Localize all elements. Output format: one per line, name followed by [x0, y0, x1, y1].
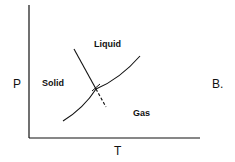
region-label-solid: Solid [42, 78, 64, 88]
fusion-line [74, 49, 96, 89]
panel-label: B. [212, 77, 223, 91]
y-axis-label: P [13, 77, 21, 91]
fusion-line-extension [96, 89, 106, 107]
region-label-gas: Gas [133, 108, 150, 118]
sublimation-vaporization-curve [63, 56, 140, 121]
x-axis-label: T [114, 144, 122, 158]
region-label-liquid: Liquid [94, 39, 121, 49]
phase-diagram: Liquid Solid Gas P T B. [0, 0, 235, 162]
